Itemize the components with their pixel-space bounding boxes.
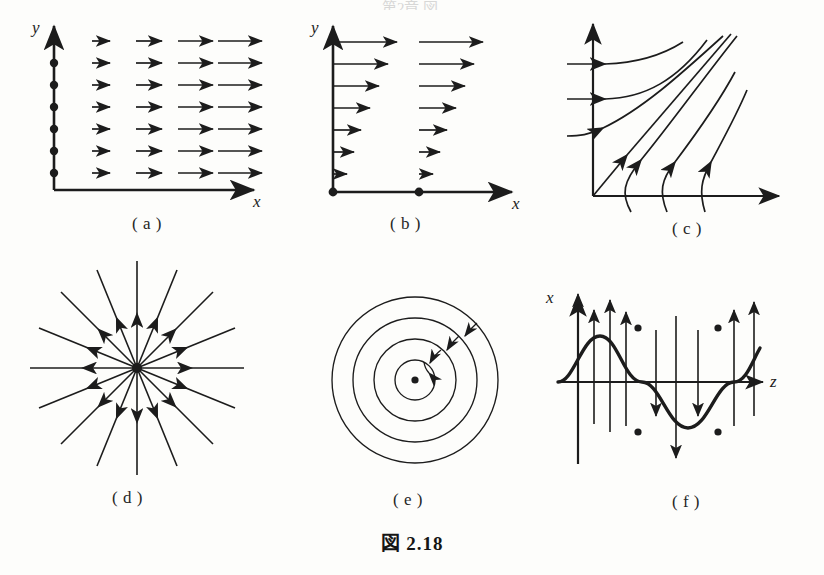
panel-c-figure <box>565 14 815 214</box>
panel-c <box>565 14 815 214</box>
panel-e-label: ( e ) <box>393 490 423 510</box>
panel-b-y-axis-label: y <box>311 18 319 38</box>
isolated-dots <box>634 324 721 435</box>
orbit-direction-arrows <box>424 323 477 373</box>
figure-root: 第2章 図 <box>0 0 824 575</box>
panel-e-figure <box>320 288 515 478</box>
panel-f: x z <box>548 286 808 486</box>
center-dot <box>132 363 142 373</box>
figure-caption: 図 2.18 <box>0 528 824 555</box>
panel-d-figure <box>22 258 257 480</box>
panel-f-x-axis-label: x <box>546 288 554 308</box>
top-cut-text: 第2章 図 <box>305 0 515 10</box>
panel-a-x-axis-label: x <box>253 192 261 212</box>
panel-e <box>320 288 515 478</box>
panel-a-figure <box>18 14 268 204</box>
panel-d <box>22 258 257 480</box>
panel-b-label: ( b ) <box>390 214 421 234</box>
panel-b-figure <box>300 14 540 204</box>
panel-c-label: ( c ) <box>672 219 702 239</box>
panel-d-label: ( d ) <box>112 488 143 508</box>
vector-arrow-grid <box>92 41 262 173</box>
center-dot <box>411 376 418 383</box>
panel-b-x-axis-label: x <box>512 194 520 214</box>
panel-b: y x <box>300 14 540 204</box>
panel-f-z-axis-label: z <box>770 372 777 392</box>
direction-arrows <box>578 294 754 458</box>
panel-f-figure <box>548 286 808 486</box>
panel-a-label: ( a ) <box>132 214 162 234</box>
panel-f-label: ( f ) <box>672 492 700 512</box>
panel-a: y x <box>18 14 268 204</box>
panel-a-y-axis-label: y <box>32 18 40 38</box>
vector-arrow-grid <box>333 42 483 174</box>
